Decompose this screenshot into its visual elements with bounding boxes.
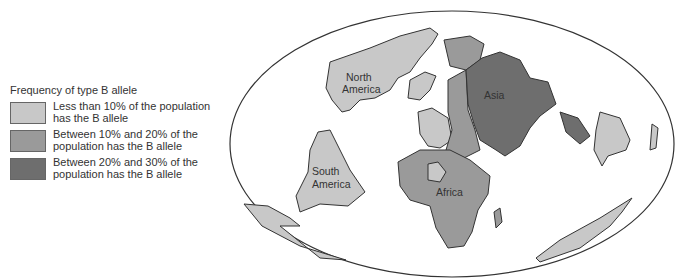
label-north-america-2: America [342, 83, 381, 95]
label-north-america-1: North [346, 71, 372, 83]
label-south-america-1: South [312, 165, 340, 177]
world-map: North America South America Africa Asia [0, 0, 680, 278]
label-africa: Africa [436, 186, 463, 198]
label-asia: Asia [484, 89, 505, 101]
label-south-america-2: America [312, 178, 351, 190]
